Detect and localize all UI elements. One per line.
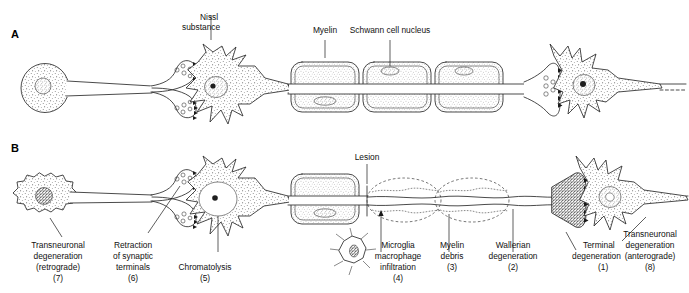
label-microglia-l3: infiltration (380, 262, 416, 272)
neuron-degeneration-figure: A (0, 0, 689, 293)
panel-b-central-neuron-chromatolysis (186, 156, 290, 236)
label-chromatolysis-num: (5) (200, 273, 210, 283)
label-transneuronal-antero-l3: (anterograde) (625, 251, 676, 261)
label-transneuronal-antero-num: (8) (645, 262, 655, 272)
label-wallerian-num: (2) (508, 262, 518, 272)
panel-a-right-neuron (550, 44, 686, 118)
panel-a-central-neuron (186, 44, 290, 124)
panel-a-letter: A (11, 28, 19, 40)
panel-b-degenerating-myelin (367, 178, 556, 222)
label-transneuronal-antero-l1: Transneuronal (623, 229, 677, 239)
label-nissl-line1: Nissl (200, 12, 218, 22)
label-transneuronal-retro-l1: Transneuronal (31, 240, 85, 250)
panel-a-left-cell-body (21, 64, 152, 113)
label-retraction-l3: terminals (116, 262, 150, 272)
label-transneuronal-retro-l2: degeneration (34, 251, 83, 261)
panel-a: A (11, 12, 686, 124)
label-transneuronal-retro-num: (7) (53, 273, 63, 283)
label-microglia-l2: macrophage (375, 251, 422, 261)
label-microglia-num: (4) (393, 273, 403, 283)
panel-b-right-neuron (576, 156, 688, 230)
label-transneuronal-antero-l2: degeneration (626, 240, 675, 250)
label-terminal-l2: degeneration (572, 251, 621, 261)
label-retraction-num: (6) (128, 273, 138, 283)
label-wallerian-l1: Wallerian (496, 240, 531, 250)
panel-b-letter: B (11, 142, 19, 154)
label-retraction-l2: of synaptic (113, 251, 153, 261)
label-lesion: Lesion (355, 152, 380, 162)
label-myelin-debris-l1: Myelin (440, 240, 465, 250)
label-transneuronal-retro-l3: (retrograde) (36, 262, 80, 272)
panel-a-myelin-sheaths (288, 62, 528, 112)
panel-b-microglia-cell (330, 228, 376, 275)
label-myelin-debris-num: (3) (447, 262, 457, 272)
label-schwann-cell-nucleus: Schwann cell nucleus (350, 25, 431, 35)
label-terminal-l1: Terminal (583, 240, 615, 250)
label-wallerian-l2: degeneration (489, 251, 538, 261)
label-microglia-l1: Microglia (381, 240, 415, 250)
label-nissl-line2: substance (182, 22, 221, 32)
label-myelin-debris-l2: debris (441, 251, 464, 261)
panel-b-intact-myelin (288, 174, 368, 224)
label-chromatolysis: Chromatolysis (178, 262, 231, 272)
label-terminal-num: (1) (598, 262, 608, 272)
panel-b: B (11, 142, 688, 283)
label-myelin: Myelin (313, 25, 338, 35)
label-retraction-l1: Retraction (114, 240, 153, 250)
panel-b-left-cell-body-shrunken (13, 173, 152, 212)
